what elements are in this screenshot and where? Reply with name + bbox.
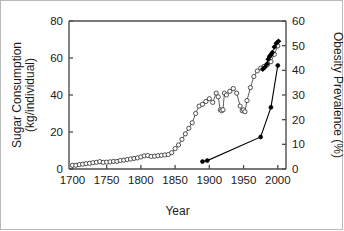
sugar-point-marker bbox=[207, 97, 211, 101]
obesity-point-marker bbox=[269, 105, 273, 109]
sugar-point-marker bbox=[238, 104, 242, 108]
right-tick-label-40: 40 bbox=[292, 64, 305, 76]
sugar-point-marker bbox=[221, 108, 225, 112]
chart-svg: 0204060800102030405060170017501800185019… bbox=[1, 1, 344, 231]
sugar-point-marker bbox=[211, 100, 215, 104]
sugar-point-marker bbox=[243, 110, 247, 114]
right-tick-label-60: 60 bbox=[292, 15, 305, 27]
y-axis-title-right: Obesity Prevalence (%) bbox=[331, 32, 344, 158]
sugar-point-marker bbox=[190, 121, 194, 125]
x-tick-label-1850: 1850 bbox=[162, 174, 188, 186]
sugar-point-marker bbox=[170, 151, 174, 155]
left-tick-label-40: 40 bbox=[50, 89, 63, 101]
x-tick-label-1750: 1750 bbox=[94, 174, 120, 186]
sugar-point-marker bbox=[235, 91, 239, 95]
left-tick-label-80: 80 bbox=[50, 15, 63, 27]
obesity-point-marker bbox=[205, 159, 209, 163]
y-axis-title-left-line2: (kg/individual) bbox=[23, 58, 37, 132]
obesity-lower-line bbox=[202, 65, 277, 161]
obesity-point-marker bbox=[259, 135, 263, 139]
sugar-point-marker bbox=[216, 95, 220, 99]
x-tick-label-2000: 2000 bbox=[265, 174, 291, 186]
x-tick-label-1700: 1700 bbox=[60, 174, 86, 186]
x-tick-label-1950: 1950 bbox=[231, 174, 257, 186]
right-tick-label-10: 10 bbox=[292, 138, 305, 150]
sugar-point-marker bbox=[248, 86, 252, 90]
chart-labels-layer: 0204060800102030405060170017501800185019… bbox=[10, 15, 344, 218]
chart-series-layer bbox=[70, 38, 281, 167]
sugar-point-marker bbox=[194, 111, 198, 115]
x-tick-label-1800: 1800 bbox=[128, 174, 154, 186]
sugar-point-marker bbox=[231, 86, 235, 90]
sugar-point-marker bbox=[180, 137, 184, 141]
left-tick-label-20: 20 bbox=[50, 126, 63, 138]
obesity-point-marker bbox=[200, 160, 204, 164]
obesity-point-marker bbox=[276, 63, 280, 67]
right-tick-label-0: 0 bbox=[292, 163, 298, 175]
right-tick-label-50: 50 bbox=[292, 40, 305, 52]
right-tick-label-30: 30 bbox=[292, 89, 305, 101]
left-tick-label-60: 60 bbox=[50, 52, 63, 64]
sugar-point-marker bbox=[245, 98, 249, 102]
sugar-point-marker bbox=[176, 143, 180, 147]
x-tick-label-1900: 1900 bbox=[197, 174, 223, 186]
sugar-point-marker bbox=[183, 132, 187, 136]
x-axis-title: Year bbox=[165, 204, 189, 218]
sugar-point-marker bbox=[187, 126, 191, 130]
y-axis-title-left-line1: Sugar Consumption bbox=[10, 42, 24, 148]
sugar-point-marker bbox=[252, 74, 256, 78]
right-tick-label-20: 20 bbox=[292, 114, 305, 126]
sugar-point-marker bbox=[173, 147, 177, 151]
sugar-point-marker bbox=[224, 93, 228, 97]
